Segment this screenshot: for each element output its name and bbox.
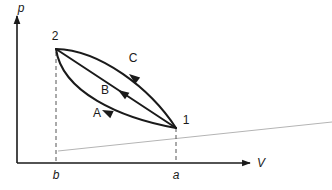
faint-reference-line [58, 122, 332, 151]
curve-label-B: B [101, 83, 109, 97]
volume-axis-label: V [257, 156, 266, 170]
tick-label-group: ba [53, 168, 180, 182]
process-curve-b [56, 49, 176, 128]
pressure-axis-label: p [17, 1, 25, 15]
tick-label-b: b [53, 168, 60, 182]
tick-label-a: a [173, 168, 180, 182]
diagram-canvas: p V ba 21 CBA [0, 0, 332, 190]
state-point-label-2: 2 [52, 29, 59, 43]
pv-diagram-figure: p V ba 21 CBA [0, 0, 332, 190]
curve-label-C: C [129, 51, 138, 65]
curve-label-A: A [93, 106, 101, 120]
process-curve-group [56, 49, 176, 128]
state-point-label-1: 1 [183, 113, 190, 127]
